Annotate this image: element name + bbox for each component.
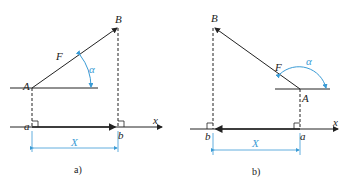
proj-a-label: a <box>24 120 30 132</box>
proj-b-label: b <box>205 130 211 142</box>
right-angle-mark <box>118 121 124 127</box>
proj-a-label: a <box>300 130 306 142</box>
x-projection-label: X <box>70 136 79 148</box>
right-angle-mark <box>207 123 213 129</box>
caption-b: b) <box>252 166 260 178</box>
point-b-label: B <box>211 12 218 24</box>
point-a-label: A <box>301 92 309 104</box>
panel-a: B A F α a b x X a) <box>10 13 162 176</box>
point-a-label: A <box>22 80 30 92</box>
force-vector-b <box>215 28 300 89</box>
x-projection-label: X <box>251 137 260 149</box>
x-axis-label: x <box>152 114 158 126</box>
x-axis-label: x <box>332 116 338 128</box>
caption-a: a) <box>74 164 82 176</box>
proj-b-label: b <box>118 129 124 141</box>
force-label: F <box>274 61 282 73</box>
right-angle-mark <box>32 121 38 127</box>
panel-b: B A F α b a x X b) <box>190 12 338 178</box>
alpha-label: α <box>306 55 312 67</box>
force-projection-figure: B A F α a b x X a) B A F α b a x X b) <box>0 0 344 185</box>
force-vector-a <box>32 28 117 88</box>
right-angle-mark <box>294 123 300 129</box>
alpha-label: α <box>89 63 95 75</box>
force-label: F <box>55 50 63 62</box>
point-b-label: B <box>115 13 122 25</box>
angle-arc-b <box>280 67 326 88</box>
